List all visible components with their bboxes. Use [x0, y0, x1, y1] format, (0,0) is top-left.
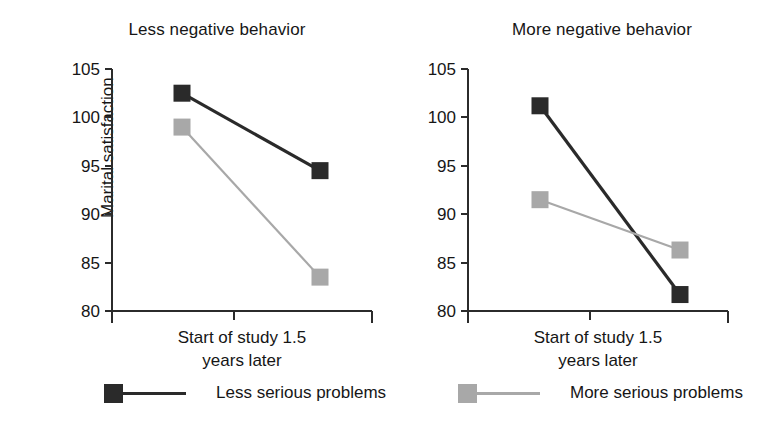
panel-container: Less negative behavior Marital satisfact…: [0, 0, 784, 370]
series-line: [182, 127, 320, 277]
x-tick-labels-right: Start of study 1.5years later: [534, 328, 663, 370]
legend-square-gray-icon: [458, 384, 477, 403]
y-tick-label: 95: [437, 157, 456, 176]
y-tick-label: 105: [428, 60, 456, 79]
y-tick-label: 105: [72, 60, 100, 79]
series-line: [182, 93, 320, 170]
x-tick-label: Start of study 1.5: [178, 328, 307, 347]
x-tick-label: Start of study 1.5: [534, 328, 663, 347]
legend-item-less-serious-problems: Less serious problems: [104, 378, 386, 408]
data-point-marker: [532, 97, 549, 114]
chart-panel-less-negative-behavior: Less negative behavior Marital satisfact…: [0, 0, 392, 370]
axes-left: [105, 69, 372, 323]
y-tick-label: 90: [81, 205, 100, 224]
plot-area-right: 80859095100105 Start of study 1.5years l…: [392, 0, 784, 370]
figure-marital-satisfaction: Less negative behavior Marital satisfact…: [0, 0, 784, 426]
y-tick-label: 85: [437, 254, 456, 273]
data-point-marker: [532, 191, 549, 208]
legend-item-more-serious-problems: More serious problems: [458, 378, 743, 408]
legend-square-dark-icon: [104, 384, 123, 403]
series-group-left: [174, 85, 329, 286]
data-point-marker: [174, 119, 191, 136]
data-point-marker: [174, 85, 191, 102]
x-tick-labels-left: Start of study 1.5years later: [178, 328, 307, 370]
legend-label-more-serious: More serious problems: [570, 383, 743, 403]
series-line: [540, 200, 680, 250]
x-tick-label: years later: [202, 351, 282, 370]
x-tick-label: years later: [558, 351, 638, 370]
series-line: [540, 106, 680, 295]
y-tick-label: 80: [81, 302, 100, 321]
legend-swatch-more-serious: [458, 382, 540, 404]
plot-area-left: 80859095100105 Start of study 1.5years l…: [0, 0, 392, 370]
y-tick-label: 100: [428, 108, 456, 127]
legend-label-less-serious: Less serious problems: [216, 383, 386, 403]
data-point-marker: [312, 269, 329, 286]
y-tick-labels-right: 80859095100105: [428, 60, 456, 321]
data-point-marker: [312, 162, 329, 179]
series-group-right: [532, 97, 689, 303]
y-tick-label: 80: [437, 302, 456, 321]
legend-line-gray-icon: [476, 392, 540, 395]
data-point-marker: [672, 242, 689, 259]
legend-swatch-less-serious: [104, 382, 186, 404]
y-tick-labels-left: 80859095100105: [72, 60, 100, 321]
axes-right: [461, 69, 728, 323]
y-tick-label: 95: [81, 157, 100, 176]
data-point-marker: [672, 286, 689, 303]
chart-panel-more-negative-behavior: More negative behavior 80859095100105 St…: [392, 0, 784, 370]
y-tick-label: 85: [81, 254, 100, 273]
legend: Less serious problems More serious probl…: [0, 370, 784, 426]
y-tick-label: 100: [72, 108, 100, 127]
legend-line-dark-icon: [122, 392, 186, 395]
y-tick-label: 90: [437, 205, 456, 224]
